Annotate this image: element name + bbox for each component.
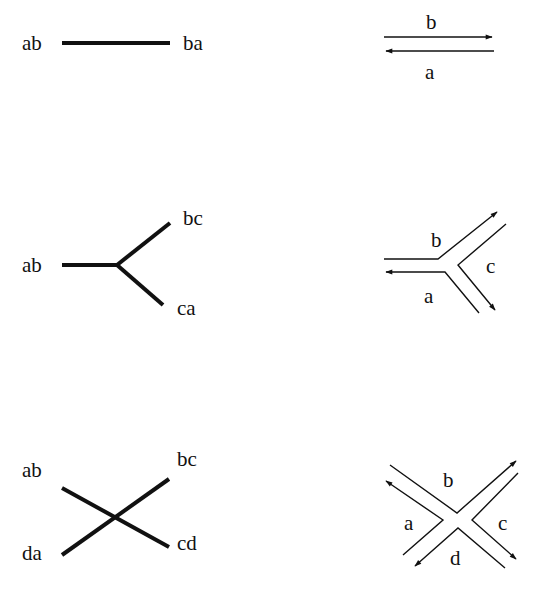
- face-label: c: [486, 254, 495, 278]
- graph-edge: [117, 223, 170, 265]
- ribbon-graph-diagram: abbabaabbccabcaabbccddabacd: [0, 0, 554, 598]
- vertex-graph: abba: [22, 31, 204, 55]
- edge-label: ca: [177, 296, 196, 320]
- ribbon-diagram: bacd: [386, 461, 518, 570]
- face-label: b: [431, 228, 442, 252]
- ribbon-diagram: bca: [384, 212, 506, 313]
- diagram-row-1: abbaba: [22, 10, 494, 84]
- diagram-row-3: abbccddabacd: [22, 447, 518, 570]
- face-label: a: [404, 511, 414, 535]
- face-label: b: [443, 468, 454, 492]
- face-label: b: [426, 10, 437, 34]
- graph-edge: [117, 265, 163, 305]
- edge-label: ba: [183, 31, 204, 55]
- vertex-graph: abbccdda: [22, 447, 197, 565]
- edge-label: bc: [177, 447, 197, 471]
- directed-boundary-arrow: [386, 481, 443, 555]
- edge-label: ab: [22, 253, 42, 277]
- edge-label: ab: [22, 458, 42, 482]
- diagram-row-2: abbccabca: [22, 206, 506, 320]
- edge-label: cd: [177, 531, 197, 555]
- face-label: c: [498, 511, 507, 535]
- face-label: d: [450, 546, 461, 570]
- ribbon-diagram: ba: [384, 10, 494, 84]
- edge-label: da: [22, 541, 43, 565]
- edge-label: ab: [22, 31, 42, 55]
- vertex-graph: abbcca: [22, 206, 203, 320]
- graph-edge: [62, 479, 169, 555]
- face-label: a: [425, 60, 435, 84]
- edge-label: bc: [183, 206, 203, 230]
- face-label: a: [424, 284, 434, 308]
